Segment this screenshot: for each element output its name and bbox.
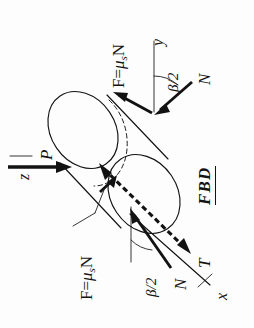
- friction-lower-leader-line: [73, 190, 104, 226]
- label-friction-lower-text: F=μsN: [77, 256, 96, 300]
- label-applied-load-text: P: [37, 150, 56, 160]
- friction-arrow-upper: [113, 92, 152, 113]
- label-normal-upper-text: N: [195, 74, 214, 85]
- label-normal-lower-text: N: [171, 279, 190, 290]
- normal-arrow-lower: [130, 208, 171, 268]
- label-axis-y-text: y: [149, 39, 166, 46]
- label-axis-z-text: z: [15, 174, 32, 180]
- label-angle-upper: β/2: [166, 73, 181, 92]
- applied-load-arrow: [8, 161, 72, 173]
- fbd-diagram-canvas: F=μsN y β/2 N P z FBD F=μsN β/2 N T x: [0, 0, 254, 328]
- label-axis-x-text: x: [213, 293, 230, 300]
- lower-angle-arc: [131, 240, 152, 250]
- label-angle-lower: β/2: [144, 278, 159, 297]
- fbd-title-text: FBD: [195, 166, 216, 205]
- label-angle-upper-text: β/2: [165, 73, 181, 92]
- label-axis-z: z: [16, 174, 32, 180]
- label-axis-y: y: [150, 39, 166, 46]
- label-normal-upper: N: [196, 74, 213, 85]
- x-axis-line: [130, 214, 212, 287]
- label-normal-lower: N: [172, 279, 189, 290]
- label-torque-text: T: [195, 259, 214, 268]
- label-applied-load: P: [38, 150, 55, 160]
- label-torque: T: [196, 259, 213, 268]
- label-axis-x: x: [214, 293, 230, 300]
- torque-arrow: [99, 163, 191, 254]
- label-friction-lower: F=μsN: [78, 256, 97, 300]
- label-friction-upper: F=μsN: [110, 44, 129, 88]
- fbd-title: FBD: [196, 166, 213, 205]
- label-angle-lower-text: β/2: [143, 278, 159, 297]
- label-friction-upper-text: F=μsN: [109, 44, 128, 88]
